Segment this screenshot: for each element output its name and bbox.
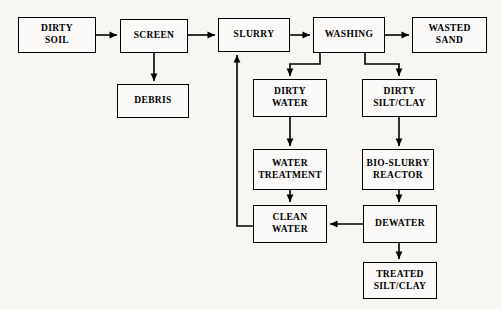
node-label: BIO-SLURRY REACTOR xyxy=(365,158,432,181)
node-label: DIRTY SILT/CLAY xyxy=(371,86,428,109)
node-label: DIRTY WATER xyxy=(270,86,310,109)
node-label: CLEAN WATER xyxy=(270,212,310,235)
node-water-treatment[interactable]: WATER TREATMENT xyxy=(253,149,327,190)
node-label: SCREEN xyxy=(132,30,177,42)
node-dewater[interactable]: DEWATER xyxy=(363,205,437,243)
flow-diagram-canvas: DIRTY SOILSCREENDEBRISSLURRYWASHINGWASTE… xyxy=(0,0,502,309)
node-label: WASTED SAND xyxy=(426,23,472,46)
arrowhead xyxy=(287,195,294,203)
edge-dewater-treated-silt-clay xyxy=(396,243,403,259)
arrowhead xyxy=(287,69,294,77)
node-label: SLURRY xyxy=(232,29,277,41)
arrowhead xyxy=(287,139,294,147)
edge-clean-water-slurry-recycle xyxy=(234,55,253,226)
node-label: DEBRIS xyxy=(132,95,173,107)
edge-washing-dirty-water xyxy=(287,53,320,76)
arrowhead xyxy=(234,55,241,63)
node-debris[interactable]: DEBRIS xyxy=(117,84,189,118)
arrowhead xyxy=(208,32,216,39)
arrowhead xyxy=(396,139,403,147)
arrowhead xyxy=(396,252,403,260)
arrowhead xyxy=(303,32,311,39)
node-clean-water[interactable]: CLEAN WATER xyxy=(253,205,327,243)
node-dirty-soil[interactable]: DIRTY SOIL xyxy=(18,17,96,53)
node-dirty-water[interactable]: DIRTY WATER xyxy=(253,79,327,117)
edge-slurry-washing xyxy=(290,32,310,39)
node-bio-slurry-reactor[interactable]: BIO-SLURRY REACTOR xyxy=(362,149,434,190)
node-wasted-sand[interactable]: WASTED SAND xyxy=(412,17,487,53)
arrowhead xyxy=(330,221,338,228)
arrowhead xyxy=(110,32,118,39)
edge-washing-dirty-silt-clay xyxy=(365,53,402,76)
arrowhead xyxy=(402,32,410,39)
node-label: DIRTY SOIL xyxy=(39,23,75,46)
edge-washing-wasted-sand xyxy=(385,32,409,39)
edge-dewater-clean-water xyxy=(330,221,363,228)
node-label: WASHING xyxy=(323,29,375,41)
edge-dirty-silt-clay-bio-reactor xyxy=(396,117,403,146)
node-screen[interactable]: SCREEN xyxy=(120,19,188,53)
node-treated-silt-clay[interactable]: TREATED SILT/CLAY xyxy=(363,262,437,299)
edge-screen-slurry xyxy=(188,32,215,39)
edge-screen-debris xyxy=(151,53,158,81)
node-slurry[interactable]: SLURRY xyxy=(218,18,290,52)
edge-water-treatment-clean-water xyxy=(287,190,294,202)
arrowhead xyxy=(396,195,403,203)
edge-dirty-soil-screen xyxy=(96,32,117,39)
edge-dirty-water-water-treatment xyxy=(287,117,294,146)
node-label: WATER TREATMENT xyxy=(256,158,324,181)
edge-bio-reactor-dewater xyxy=(396,190,403,202)
node-washing[interactable]: WASHING xyxy=(313,17,385,53)
arrowhead xyxy=(151,74,158,82)
arrowhead xyxy=(396,69,403,77)
node-dirty-silt-clay[interactable]: DIRTY SILT/CLAY xyxy=(362,79,437,117)
node-label: TREATED SILT/CLAY xyxy=(372,269,429,292)
node-label: DEWATER xyxy=(373,218,427,230)
